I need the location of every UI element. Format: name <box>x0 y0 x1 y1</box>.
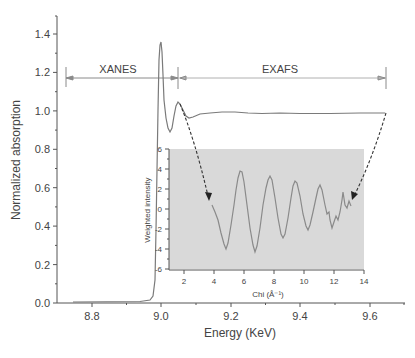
inset-x-tick-label: 4 <box>212 277 217 286</box>
x-tick-label: 9.6 <box>362 310 377 322</box>
inset-x-axis-label: Chi (Å⁻¹) <box>252 290 284 299</box>
y-tick-label: 0.0 <box>35 297 50 309</box>
inset-x-tick-label: 8 <box>272 277 277 286</box>
inset-y-tick-label: 6 <box>158 145 163 154</box>
main-y-axis <box>53 16 57 303</box>
inset-y-tick-label: -2 <box>155 225 163 234</box>
y-tick-label: 0.6 <box>35 182 50 194</box>
x-tick-label: 8.8 <box>84 310 99 322</box>
main-x-axis <box>57 303 405 307</box>
inset-x-tick-label: 2 <box>182 277 187 286</box>
inset-y-tick-label: 4 <box>158 165 163 174</box>
x-tick-label: 9.0 <box>153 310 168 322</box>
inset-x-tick-label: 10 <box>300 277 309 286</box>
y-tick-label: 0.2 <box>35 259 50 271</box>
y-tick-label: 0.4 <box>35 220 50 232</box>
inset-x-tick-label: 6 <box>242 277 247 286</box>
inset-y-tick-label: 0 <box>158 205 163 214</box>
y-tick-label: 1.4 <box>35 28 50 40</box>
main-y-tick-labels: 0.0 0.2 0.4 0.6 0.8 1.0 1.2 1.4 <box>35 28 50 309</box>
inset-background <box>169 149 364 269</box>
main-x-axis-label: Energy (KeV) <box>204 326 276 340</box>
inset-y-tick-label: -4 <box>155 245 163 254</box>
exafs-label: EXAFS <box>262 63 298 75</box>
y-tick-label: 0.8 <box>35 143 50 155</box>
inset-x-tick-label: 12 <box>330 277 339 286</box>
xas-chart: 0.0 0.2 0.4 0.6 0.8 1.0 1.2 1.4 Normaliz… <box>0 0 415 358</box>
inset-x-tick-label: 14 <box>360 277 369 286</box>
y-tick-label: 1.2 <box>35 66 50 78</box>
inset-y-tick-label: -6 <box>155 265 163 274</box>
main-y-axis-label: Normalized absorption <box>9 100 23 220</box>
x-tick-label: 9.2 <box>223 310 238 322</box>
x-tick-label: 9.4 <box>292 310 307 322</box>
inset-x-tick-labels: 2 4 6 8 10 12 14 <box>182 277 369 286</box>
inset-y-axis-label: Weighted intensity <box>143 177 152 242</box>
y-tick-label: 1.0 <box>35 105 50 117</box>
inset-chart: 6 4 2 0 -2 -4 -6 2 4 6 8 10 12 14 Weight… <box>143 145 369 299</box>
main-x-tick-labels: 8.8 9.0 9.2 9.4 9.6 <box>84 310 377 322</box>
inset-y-tick-label: 2 <box>158 185 163 194</box>
xanes-label: XANES <box>99 63 136 75</box>
